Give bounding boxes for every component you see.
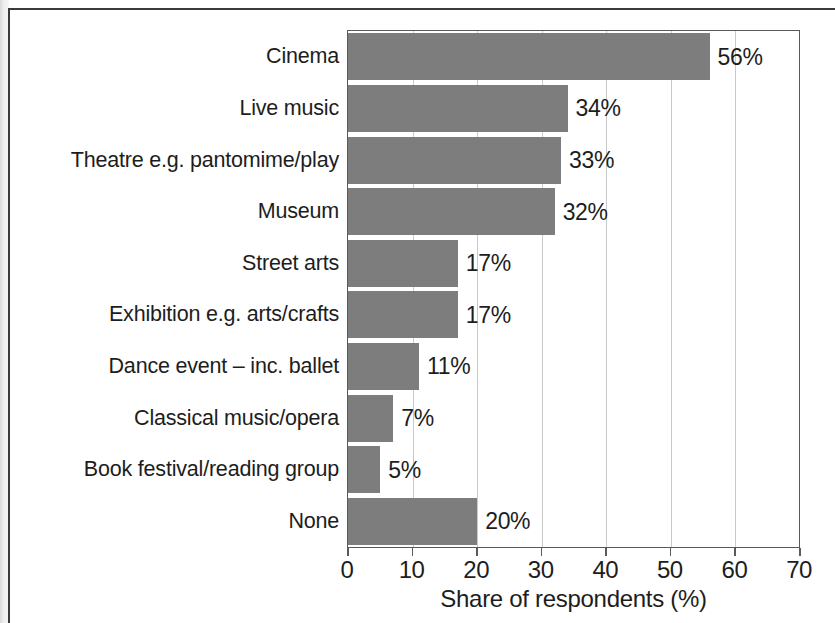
x-tick-mark <box>734 548 736 556</box>
category-label: Theatre e.g. pantomime/play <box>71 137 339 184</box>
x-tick-mark <box>670 548 672 556</box>
bar-row: 33% <box>348 137 800 184</box>
x-tick-mark <box>412 548 414 556</box>
x-tick-label: 70 <box>786 556 812 584</box>
category-label: Museum <box>258 188 339 235</box>
x-tick-label: 10 <box>399 556 425 584</box>
bar-row: 7% <box>348 395 800 442</box>
bar <box>348 33 710 80</box>
bars-layer: 56%34%33%32%17%17%11%7%5%20% <box>348 31 800 547</box>
bar-row: 56% <box>348 33 800 80</box>
bar <box>348 291 458 338</box>
bar-row: 17% <box>348 291 800 338</box>
bar-row: 17% <box>348 240 800 287</box>
x-tick-label: 30 <box>528 556 554 584</box>
x-tick-label: 0 <box>341 556 354 584</box>
x-axis-title: Share of respondents (%) <box>347 585 800 613</box>
bar-value-label: 7% <box>401 405 434 432</box>
bar <box>348 85 568 132</box>
bar <box>348 343 419 390</box>
category-label: Street arts <box>242 240 339 287</box>
category-label: Book festival/reading group <box>84 446 339 493</box>
x-tick-label: 50 <box>657 556 683 584</box>
bar-chart: CinemaLive musicTheatre e.g. pantomime/p… <box>0 0 835 623</box>
bar <box>348 137 561 184</box>
category-label: None <box>288 498 339 545</box>
bar-value-label: 17% <box>466 250 511 277</box>
category-label: Exhibition e.g. arts/crafts <box>109 291 339 338</box>
bar <box>348 188 555 235</box>
bar <box>348 498 477 545</box>
x-tick-label: 60 <box>722 556 748 584</box>
x-tick-mark <box>541 548 543 556</box>
x-tick-mark <box>347 548 349 556</box>
category-label: Dance event – inc. ballet <box>109 343 339 390</box>
bar-value-label: 17% <box>466 301 511 328</box>
bar <box>348 240 458 287</box>
x-tick-mark <box>605 548 607 556</box>
bar-value-label: 56% <box>718 43 763 70</box>
category-label: Live music <box>239 85 339 132</box>
bar-value-label: 33% <box>569 147 614 174</box>
bar-row: 34% <box>348 85 800 132</box>
bar <box>348 446 380 493</box>
x-tick-label: 40 <box>592 556 618 584</box>
bar-row: 32% <box>348 188 800 235</box>
bar-value-label: 32% <box>563 198 608 225</box>
bar-value-label: 34% <box>576 95 621 122</box>
bar-value-label: 5% <box>388 456 421 483</box>
chart-screenshot: CinemaLive musicTheatre e.g. pantomime/p… <box>0 0 835 623</box>
x-tick-label: 20 <box>463 556 489 584</box>
bar-value-label: 11% <box>427 353 470 380</box>
x-tick-mark <box>476 548 478 556</box>
category-axis-labels: CinemaLive musicTheatre e.g. pantomime/p… <box>0 31 339 547</box>
bar-row: 5% <box>348 446 800 493</box>
bar-value-label: 20% <box>485 508 530 535</box>
bar-row: 20% <box>348 498 800 545</box>
x-tick-mark <box>799 548 801 556</box>
category-label: Cinema <box>266 33 339 80</box>
bar <box>348 395 393 442</box>
category-label: Classical music/opera <box>134 395 339 442</box>
bar-row: 11% <box>348 343 800 390</box>
